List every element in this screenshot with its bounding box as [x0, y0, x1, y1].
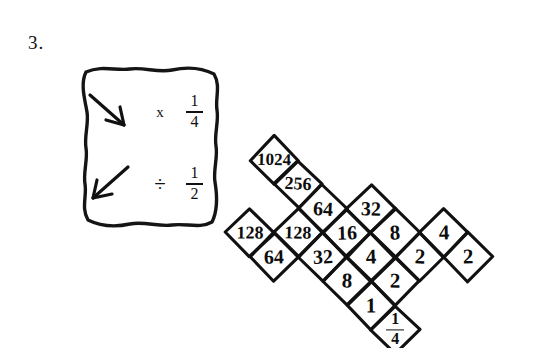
lattice-diamond — [347, 233, 395, 282]
fraction-denominator: 4 — [188, 114, 202, 131]
lattice-diamond — [396, 233, 444, 281]
rule-key-box: x 1 4 ÷ 1 2 — [72, 62, 225, 234]
lattice-diamond — [298, 232, 346, 281]
lattice-diamond — [250, 232, 299, 281]
operator-divide: ÷ — [140, 174, 180, 195]
lattice-diamond — [298, 185, 347, 233]
lattice-diamond — [323, 209, 371, 256]
arrow-down-left-icon — [84, 161, 140, 207]
arrow-down-right-icon — [84, 89, 140, 135]
lattice-diamond — [372, 258, 420, 306]
lattice-outline — [238, 28, 530, 320]
fraction-numerator: 1 — [391, 311, 399, 328]
lattice-diamond — [444, 232, 493, 282]
legend-row-divide: ÷ 1 2 — [72, 149, 225, 219]
lattice-diamond — [323, 257, 371, 305]
lattice-diamond — [346, 185, 396, 233]
lattice-diamond — [419, 209, 467, 257]
lattice-diamond — [225, 209, 274, 257]
operator-multiply: x — [140, 104, 180, 121]
lattice-diamond — [274, 161, 322, 208]
fraction-numerator: 1 — [188, 93, 202, 110]
fraction-denominator: 2 — [188, 186, 202, 203]
fraction-denominator: 4 — [391, 332, 399, 348]
lattice-cell-fraction: 14 — [386, 311, 404, 348]
fraction-numerator: 1 — [188, 165, 202, 182]
legend-fraction-one-half: 1 2 — [186, 165, 203, 203]
problem-number: 3. — [28, 32, 44, 54]
diamond-number-lattice: 102425664163282421283286442112814 — [238, 28, 530, 320]
legend-fraction-one-quarter: 1 4 — [186, 93, 203, 131]
legend-row-multiply: x 1 4 — [72, 77, 225, 147]
lattice-diamond — [274, 208, 323, 257]
lattice-diamond — [371, 208, 421, 257]
lattice-diamond — [250, 135, 298, 184]
